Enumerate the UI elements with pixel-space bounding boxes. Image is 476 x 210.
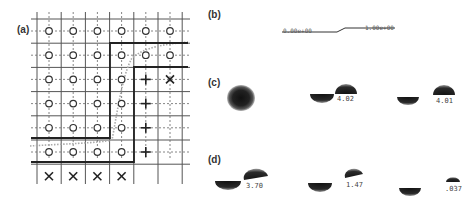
interior-node-icon: [143, 52, 150, 59]
exterior-node-icon: [118, 172, 126, 180]
interior-node-icon: [70, 125, 77, 132]
boundary-node-icon: [141, 99, 151, 109]
interior-node-icon: [46, 125, 53, 132]
interior-node-icon: [118, 100, 125, 107]
boundary-node-icon: [141, 74, 151, 84]
interior-node-icon: [70, 149, 77, 156]
interior-node-icon: [70, 100, 77, 107]
interface-curve: [30, 42, 188, 146]
interior-node-icon: [94, 100, 101, 107]
interior-node-icon: [118, 149, 125, 156]
panel-a-grid: [0, 0, 476, 210]
interior-node-icon: [118, 125, 125, 132]
interior-node-icon: [46, 149, 53, 156]
exterior-node-icon: [69, 172, 77, 180]
interior-node-icon: [70, 76, 77, 83]
interior-node-icon: [46, 76, 53, 83]
interior-node-icon: [70, 28, 77, 35]
inner-boundary: [31, 43, 188, 138]
interior-node-icon: [94, 76, 101, 83]
interior-node-icon: [118, 52, 125, 59]
interior-node-icon: [118, 76, 125, 83]
interior-node-icon: [118, 28, 125, 35]
interior-node-icon: [46, 52, 53, 59]
interior-node-icon: [167, 52, 174, 59]
interior-node-icon: [94, 28, 101, 35]
interior-node-icon: [94, 125, 101, 132]
exterior-node-icon: [45, 172, 53, 180]
interior-node-icon: [70, 52, 77, 59]
boundary-node-icon: [141, 123, 151, 133]
interior-node-icon: [94, 52, 101, 59]
interior-node-icon: [46, 28, 53, 35]
exterior-node-icon: [93, 172, 101, 180]
interior-node-icon: [143, 28, 150, 35]
interior-node-icon: [46, 100, 53, 107]
interior-node-icon: [94, 149, 101, 156]
interior-node-icon: [167, 28, 174, 35]
boundary-node-icon: [141, 147, 151, 157]
